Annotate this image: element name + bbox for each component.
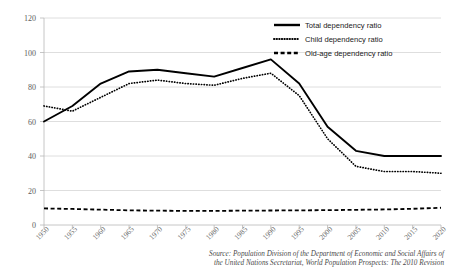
series-line-child-dependency-ratio: [44, 73, 441, 173]
y-tick-label-120: 120: [24, 14, 36, 23]
y-tick-label-0: 0: [32, 221, 36, 230]
x-tick-label-2020: 2020: [431, 225, 448, 242]
source-note-line-2: the United Nations Secretariat, World Po…: [214, 259, 444, 267]
x-tick-label-2000: 2000: [317, 225, 334, 242]
x-tick-label-2015: 2015: [402, 225, 419, 242]
y-tick-label-100: 100: [24, 49, 36, 58]
series-line-total-dependency-ratio: [44, 59, 441, 156]
x-tick-label-1950: 1950: [34, 225, 51, 242]
y-tick-label-20: 20: [28, 187, 36, 196]
x-axis-tick-labels: 1950195519601965197019751980198519901995…: [34, 225, 448, 242]
x-tick-label-1980: 1980: [204, 225, 221, 242]
y-axis-tick-labels: 020406080100120: [24, 14, 36, 230]
x-tick-label-1990: 1990: [261, 225, 278, 242]
series-line-old-age-dependency-ratio: [44, 208, 441, 211]
x-tick-label-1985: 1985: [232, 225, 249, 242]
x-tick-label-1960: 1960: [90, 225, 107, 242]
x-tick-label-2010: 2010: [374, 225, 391, 242]
legend-label-1: Child dependency ratio: [305, 35, 383, 44]
y-tick-label-80: 80: [28, 83, 36, 92]
x-tick-label-1955: 1955: [62, 225, 79, 242]
chart-container: 020406080100120 195019551960196519701975…: [0, 0, 450, 270]
x-tick-label-1970: 1970: [147, 225, 164, 242]
x-tick-label-1975: 1975: [176, 225, 193, 242]
y-tick-label-60: 60: [28, 118, 36, 127]
legend-label-2: Old-age dependency ratio: [305, 49, 392, 58]
dependency-ratio-line-chart: 020406080100120 195019551960196519701975…: [0, 0, 450, 270]
source-note-line-1: Source: Population Division of the Depar…: [209, 250, 445, 258]
x-tick-label-1965: 1965: [119, 225, 136, 242]
legend-label-0: Total dependency ratio: [305, 21, 381, 30]
x-tick-label-1995: 1995: [289, 225, 306, 242]
data-series: [44, 59, 441, 210]
y-tick-label-40: 40: [28, 152, 36, 161]
x-tick-label-2005: 2005: [346, 225, 363, 242]
